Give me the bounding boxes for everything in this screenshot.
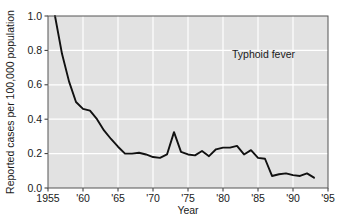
- x-tick-label: '60: [76, 192, 90, 204]
- typhoid-fever-line-chart: 0.00.20.40.60.81.0 1955'60'65'70'75'80'8…: [0, 0, 343, 222]
- y-tick-label: 1.0: [27, 10, 42, 22]
- y-tick-label: 0.6: [27, 78, 42, 90]
- x-tick-label: '95: [321, 192, 335, 204]
- series-annotation-label: Typhoid fever: [232, 48, 296, 60]
- y-tick-label: 0.2: [27, 147, 42, 159]
- y-tick-label: 0.8: [27, 44, 42, 56]
- y-axis-title: Reported cases per 100,000 population: [4, 10, 16, 194]
- x-tick-label: '80: [216, 192, 230, 204]
- x-tick-label: '85: [251, 192, 265, 204]
- x-tick-label: '90: [286, 192, 300, 204]
- y-tick-label: 0.4: [27, 113, 42, 125]
- x-axis-title: Year: [177, 204, 199, 216]
- x-tick-label: '70: [146, 192, 160, 204]
- x-tick-label: '65: [111, 192, 125, 204]
- chart-container: 0.00.20.40.60.81.0 1955'60'65'70'75'80'8…: [0, 0, 343, 222]
- x-tick-label: 1955: [36, 192, 60, 204]
- x-tick-label: '75: [181, 192, 195, 204]
